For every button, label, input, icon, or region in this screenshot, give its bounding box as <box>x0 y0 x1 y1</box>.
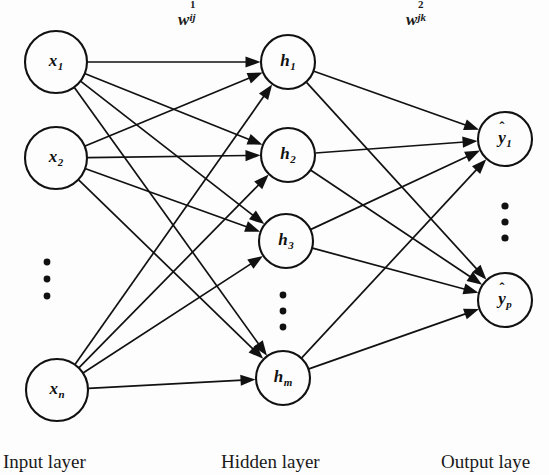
connection-line <box>75 95 265 364</box>
node-label-hm: hm <box>274 368 293 388</box>
output-ellipsis-dot <box>501 218 508 225</box>
connection-arrowhead <box>464 151 480 162</box>
hidden-ellipsis-dot <box>280 292 287 299</box>
network-canvas <box>0 0 549 475</box>
connection-line <box>311 156 468 229</box>
node-label-h3: h3 <box>278 231 293 251</box>
hidden-layer-caption: Hidden layer <box>221 452 320 471</box>
connection-line <box>86 169 248 228</box>
input-ellipsis-dot <box>44 293 51 300</box>
hidden-ellipsis-dot <box>280 308 287 315</box>
connection-arrowhead <box>240 375 255 386</box>
hidden-ellipsis-dot <box>280 324 287 331</box>
connection-line <box>313 248 466 289</box>
connection-line <box>88 380 242 388</box>
connection-arrowhead <box>246 134 262 145</box>
connection-line <box>307 82 478 270</box>
connection-arrowhead <box>244 221 260 232</box>
input-layer-caption: Input layer <box>3 452 86 471</box>
connection-line <box>85 77 250 145</box>
nodes-group <box>25 31 532 421</box>
output-ellipsis-dot <box>501 234 508 241</box>
connection-line <box>74 88 259 346</box>
input-ellipsis-dot <box>44 276 51 283</box>
node-label-x1: x1 <box>49 52 64 72</box>
connection-line <box>87 156 247 158</box>
connection-line <box>314 71 467 125</box>
weight-label-hidden-output: w2jk <box>406 8 432 28</box>
connection-arrowhead <box>462 137 477 148</box>
output-ellipsis-dot <box>501 202 508 209</box>
input-ellipsis-dot <box>44 259 51 266</box>
connection-arrowhead <box>463 120 479 131</box>
node-label-xn: xn <box>49 380 64 400</box>
connection-arrowhead <box>463 284 479 295</box>
connection-arrowhead <box>246 56 261 67</box>
connection-line <box>85 74 250 140</box>
connection-arrowhead <box>245 150 260 161</box>
node-label-yp: ̂yp <box>498 290 512 310</box>
node-label-h2: h2 <box>280 145 295 165</box>
connection-arrowhead <box>259 84 272 99</box>
connection-arrowhead <box>249 210 264 224</box>
node-label-x2: x2 <box>49 148 64 168</box>
connection-arrowhead <box>247 73 263 84</box>
connection-arrowhead <box>247 256 263 269</box>
node-label-y1: ̂y1 <box>498 129 512 149</box>
node-label-h1: h1 <box>280 52 295 72</box>
connection-arrowhead <box>463 309 479 320</box>
connection-line <box>81 81 254 216</box>
neural-network-diagram: x1x2xnh1h2h3hm̂y1̂yp w1ij w2jk Input lay… <box>0 0 549 475</box>
weight-label-input-hidden: w1ij <box>178 8 204 28</box>
connection-line <box>79 180 254 350</box>
connection-line <box>315 142 464 153</box>
connection-line <box>309 313 467 368</box>
output-layer-caption: Output laye <box>441 452 530 471</box>
